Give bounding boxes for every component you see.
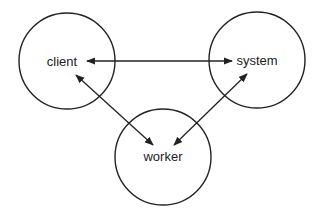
- node-system: system: [209, 12, 305, 108]
- edge-system-worker: [174, 74, 247, 145]
- diagram-canvas: client system worker: [0, 0, 322, 217]
- node-label-client: client: [47, 54, 78, 69]
- node-label-worker: worker: [142, 149, 183, 164]
- node-label-system: system: [236, 53, 277, 68]
- edge-client-worker: [76, 75, 153, 145]
